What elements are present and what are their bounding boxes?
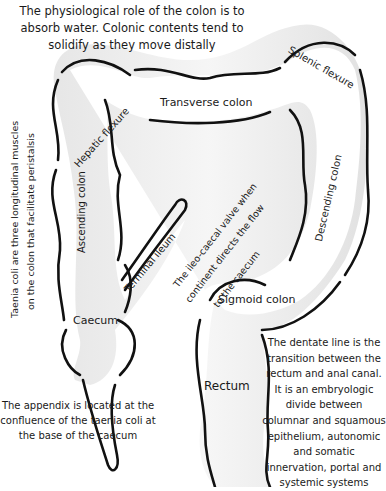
label-caecum: Caecum bbox=[73, 314, 118, 327]
label-ascending-colon: Ascending colon bbox=[76, 171, 87, 253]
appendix-note: The appendix is located at the confluenc… bbox=[0, 398, 156, 443]
label-rectum: Rectum bbox=[204, 379, 250, 393]
physiology-note: The physiological role of the colon is t… bbox=[2, 3, 262, 54]
taenia-coli-note-line2: on the colon that facilitate peristalsis bbox=[24, 133, 37, 310]
taenia-coli-note-line1: Taenia coli are three longitudinal muscl… bbox=[8, 121, 21, 318]
dentate-line-note: The dentate line is the transition betwe… bbox=[262, 335, 386, 491]
label-transverse-colon: Transverse colon bbox=[160, 96, 252, 109]
